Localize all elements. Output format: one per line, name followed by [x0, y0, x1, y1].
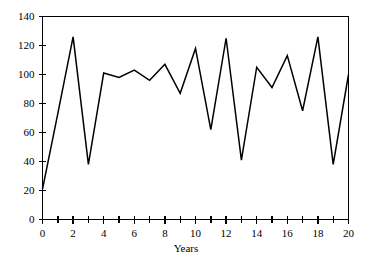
y-axis-tick-label: 40	[24, 155, 36, 167]
x-axis-tick-label: 10	[190, 227, 202, 239]
chart-canvas: 020406080100120140 02468101214161820 Yea…	[0, 0, 369, 267]
x-axis-tick-label: 4	[101, 227, 107, 239]
y-axis-tick-labels: 020406080100120140	[18, 10, 35, 225]
x-axis-tick-label: 0	[40, 227, 46, 239]
line-chart: 020406080100120140 02468101214161820 Yea…	[0, 0, 369, 267]
x-axis-ticks	[43, 216, 349, 224]
y-axis-tick-label: 20	[24, 184, 36, 196]
y-axis-tick-label: 60	[24, 126, 36, 138]
x-axis-tick-labels: 02468101214161820	[40, 227, 355, 239]
x-axis-tick-label: 14	[251, 227, 263, 239]
data-series-line	[43, 37, 349, 189]
x-axis-tick-label: 16	[282, 227, 294, 239]
y-axis-tick-label: 100	[18, 68, 35, 80]
y-axis-tick-label: 0	[29, 213, 35, 225]
x-axis-tick-label: 20	[343, 227, 355, 239]
series-polyline	[43, 37, 349, 189]
x-axis-title: Years	[174, 242, 199, 254]
x-axis-tick-label: 8	[162, 227, 168, 239]
y-axis-tick-label: 140	[18, 10, 35, 22]
x-axis-tick-label: 12	[221, 227, 232, 239]
x-axis-tick-label: 2	[70, 227, 76, 239]
y-axis-tick-label: 120	[18, 39, 35, 51]
x-axis-tick-label: 18	[312, 227, 324, 239]
x-axis-tick-label: 6	[132, 227, 138, 239]
y-axis-tick-label: 80	[24, 97, 36, 109]
